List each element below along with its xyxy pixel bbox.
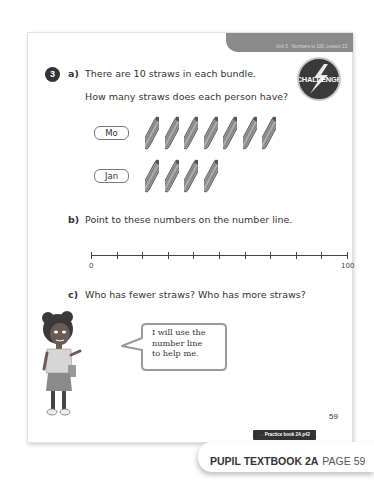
footer-book-tab: PUPIL TEXTBOOK 2APAGE 59 [198, 442, 374, 472]
straw-bundle-icon [165, 115, 179, 151]
number-line-tick [296, 252, 297, 259]
straw-bundle-icon [145, 158, 159, 194]
number-line-end-label: 100 [341, 262, 354, 270]
speech-bubble-text: I will use the number line to help me. [152, 327, 206, 359]
textbook-page: Unit 3 · Numbers to 100, Lesson 13 CHALL… [27, 32, 353, 443]
name-label-mo: Mo [94, 126, 129, 140]
part-c-text: Who has fewer straws? Who has more straw… [85, 289, 306, 300]
girl-character-illustration [34, 311, 84, 419]
number-line-tick [193, 252, 194, 259]
unit-header-tab: Unit 3 · Numbers to 100, Lesson 13 [226, 33, 353, 52]
straw-bundle-icon [243, 115, 257, 151]
part-a-label: a) [68, 68, 79, 79]
straw-bundle-icon [184, 158, 198, 194]
part-b-text: Point to these numbers on the number lin… [85, 214, 292, 225]
straw-bundle-icon [262, 115, 276, 151]
part-b-label: b) [68, 214, 79, 225]
book-title: PUPIL TEXTBOOK 2A [210, 455, 318, 467]
name-label-jan: Jan [94, 169, 129, 183]
straw-bundle-icon [145, 115, 159, 151]
number-line-tick [91, 252, 92, 259]
straw-bundle-icon [204, 158, 218, 194]
number-line-tick [321, 252, 322, 259]
number-line-tick [117, 252, 118, 259]
straw-bundle-icon [223, 115, 237, 151]
question-number: 3 [45, 67, 60, 82]
number-line-tick [347, 252, 348, 259]
number-line[interactable] [91, 251, 348, 261]
straw-bundle-icon [204, 115, 218, 151]
page-label: PAGE 59 [322, 455, 365, 467]
number-line-tick [142, 252, 143, 259]
number-line-tick [270, 252, 271, 259]
number-line-tick [219, 252, 220, 259]
number-line-tick [168, 252, 169, 259]
part-a-line1: There are 10 straws in each bundle. [85, 68, 256, 79]
number-line-tick [245, 252, 246, 259]
number-line-start-label: 0 [89, 262, 93, 270]
part-c-label: c) [68, 289, 78, 300]
challenge-badge: CHALLENGE [297, 57, 341, 101]
straw-bundle-icon [165, 158, 179, 194]
page-number: 59 [329, 412, 338, 421]
part-a-line2: How many straws does each person have? [85, 91, 288, 102]
straw-bundle-icon [184, 115, 198, 151]
practice-book-link[interactable]: → Practice book 2A p42 [253, 430, 316, 440]
